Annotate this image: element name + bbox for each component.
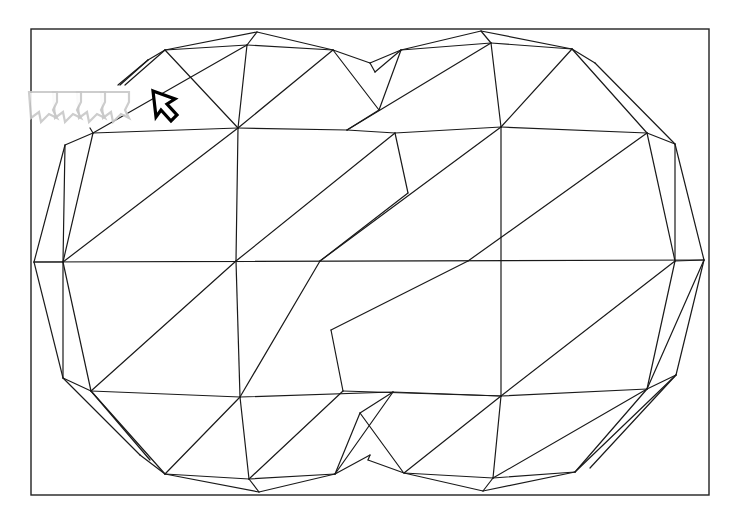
mesh-edge [333,50,379,110]
mesh-edge [91,391,150,460]
mesh-edge [118,60,148,85]
mesh-edge [393,392,501,396]
mesh-edge [575,389,647,472]
mesh-edge [335,392,393,474]
mesh-edge [647,260,704,389]
mesh-edge [468,133,647,261]
mesh-edge [647,133,675,144]
mesh-edge [501,127,647,133]
mesh-edge [501,389,647,396]
mesh-edge [240,261,320,397]
mesh-edge [93,128,238,133]
mesh-edge [572,49,595,63]
mesh-edge [647,375,676,389]
mesh-edge [676,260,704,375]
mesh-edge [335,455,370,474]
mesh-edge [91,391,240,397]
cursor-trail-ghost [29,92,57,122]
wireframe-canvas[interactable] [0,0,736,516]
mesh-edge [63,378,140,455]
mesh-edge [238,45,247,128]
mesh-edge [140,455,165,474]
mesh-edge [249,391,343,479]
mesh-edge [90,128,93,133]
mesh-edge [360,392,393,413]
mesh-edge [331,261,468,330]
mesh-edge [240,397,249,479]
mesh-edge [238,128,347,130]
mesh-edge [501,49,572,127]
mesh-edge [240,392,393,397]
mesh-edge [91,261,236,391]
mesh-edge [481,31,572,49]
mesh-edge [238,50,333,128]
mesh-edge [647,133,675,261]
mesh-edge [370,63,375,72]
mesh-edge [395,127,501,133]
cursor-trail [29,92,129,122]
mesh-edge [590,375,676,468]
mesh-edge [572,49,647,133]
mesh-edge [347,130,395,133]
mesh-edge [493,396,501,478]
mesh-edge [493,389,647,478]
mesh-edge [491,43,501,127]
mesh-edge [236,133,395,261]
mesh-edge [34,260,704,262]
mesh-edge [34,262,63,378]
mesh-edge [236,261,240,397]
mesh-edge [63,145,65,262]
mesh-edge [501,261,675,396]
arrow-pointer-icon [153,91,177,121]
mesh-edge [34,145,65,262]
mesh-edge [360,413,403,472]
mesh-edge [65,133,93,145]
mesh-edge [236,128,238,261]
wireframe-mesh [34,31,704,492]
mesh-edge [675,144,704,260]
mesh-edge [331,330,343,391]
mesh-edge [63,262,91,391]
mesh-edge [395,133,408,193]
mesh-edge [404,396,501,473]
mesh-edge [63,378,91,391]
mesh-edge [165,397,240,474]
mouse-cursor [153,91,177,121]
mesh-edge [320,127,501,261]
mesh-edge [347,43,491,130]
mesh-edge [125,50,165,85]
